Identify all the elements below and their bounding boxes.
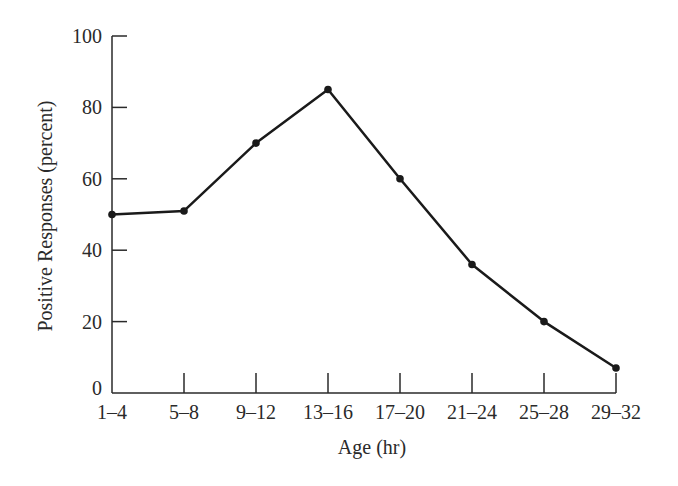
- x-tick-label: 17–20: [375, 401, 425, 423]
- x-axis-ticks: 1–45–89–1213–1617–2021–2425–2829–32: [97, 373, 641, 423]
- data-point: [324, 86, 332, 94]
- y-tick-label: 0: [92, 377, 102, 399]
- x-tick-label: 5–8: [169, 401, 199, 423]
- data-point: [396, 175, 404, 183]
- y-tick-label: 20: [82, 311, 102, 333]
- y-tick-label: 40: [82, 239, 102, 261]
- x-tick-label: 13–16: [303, 401, 353, 423]
- line-chart: 020406080100 1–45–89–1213–1617–2021–2425…: [0, 0, 678, 486]
- y-axis-ticks: 020406080100: [72, 25, 127, 399]
- data-series: [108, 86, 620, 372]
- x-tick-label: 25–28: [519, 401, 569, 423]
- x-tick-label: 1–4: [97, 401, 127, 423]
- x-axis-label: Age (hr): [338, 436, 406, 459]
- data-point: [540, 318, 548, 326]
- series-line: [112, 90, 616, 368]
- data-point: [252, 139, 260, 147]
- data-point: [108, 211, 116, 219]
- x-tick-label: 21–24: [447, 401, 497, 423]
- data-point: [468, 261, 476, 269]
- y-tick-label: 60: [82, 168, 102, 190]
- data-point: [180, 207, 188, 215]
- x-tick-label: 29–32: [591, 401, 641, 423]
- data-point: [612, 364, 620, 372]
- y-tick-label: 80: [82, 96, 102, 118]
- axes: [112, 36, 616, 393]
- x-tick-label: 9–12: [236, 401, 276, 423]
- y-axis-label: Positive Responses (percent): [34, 100, 57, 331]
- y-tick-label: 100: [72, 25, 102, 47]
